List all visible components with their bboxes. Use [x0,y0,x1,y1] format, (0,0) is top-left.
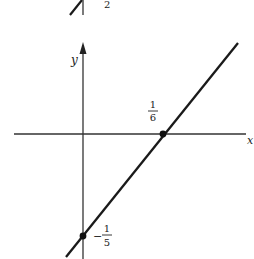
top-fragment: 2 [70,0,110,15]
x-intercept-denominator: 6 [150,112,156,123]
x-axis-label: x [247,134,254,147]
fragment-line [70,0,82,15]
fragment-label: 2 [104,0,110,10]
y-intercept-numerator: 1 [104,223,110,234]
y-intercept-sign: − [93,230,102,243]
x-intercept-label: 1 6 [148,99,158,123]
graph-canvas: 2 x y 1 6 − 1 5 [0,0,254,259]
x-intercept-numerator: 1 [150,99,156,110]
x-intercept-point [160,131,167,138]
graph-line [66,43,238,257]
y-axis-label: y [70,53,78,67]
y-axis-arrow-icon [80,42,87,54]
y-intercept-point [80,233,87,240]
y-intercept-label: − 1 5 [93,223,112,248]
y-intercept-denominator: 5 [104,237,110,248]
